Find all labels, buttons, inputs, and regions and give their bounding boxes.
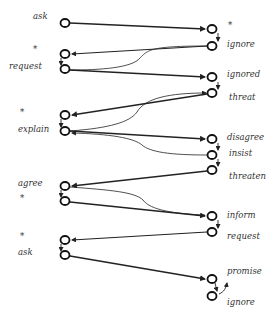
left-node-explain	[61, 127, 70, 135]
right-node-disagree	[208, 135, 217, 143]
label-disagree: disagree	[227, 132, 264, 142]
label-ignore: ignore	[227, 39, 255, 49]
right-node-threaten	[208, 166, 217, 174]
label-promise: promise	[227, 266, 262, 276]
left-node-star-1	[61, 50, 70, 58]
label-inform: inform	[227, 210, 256, 220]
right-link-arrow	[215, 283, 217, 291]
label-ignored: ignored	[227, 69, 260, 79]
label-star: *	[20, 193, 24, 203]
edge-insist-to-explain-curve	[72, 133, 207, 155]
edge-ask-to-promise	[70, 256, 205, 279]
edge-request-to-star	[72, 232, 207, 240]
right-node-ignored	[208, 73, 217, 81]
edge-ask-to-star	[70, 23, 205, 29]
left-node-agree	[61, 182, 70, 190]
label-star: *	[33, 44, 37, 54]
dialogue-transition-diagram: ask * request * explain agree * * ask * …	[0, 0, 277, 318]
right-node-request	[208, 228, 217, 236]
left-node-ask	[61, 19, 70, 27]
right-node-star	[208, 25, 217, 33]
label-insist: insist	[229, 148, 252, 158]
left-node-request	[61, 65, 70, 73]
left-node-star-4	[61, 236, 70, 244]
edge-threat-to-star	[72, 94, 207, 115]
label-request: request	[9, 61, 42, 71]
right-node-insist	[208, 151, 217, 159]
label-ask: ask	[18, 247, 33, 257]
edge-agree-to-inform-curve	[70, 187, 205, 215]
edge-request-to-ignored	[70, 70, 205, 77]
label-threat: threat	[229, 92, 255, 102]
label-star: *	[228, 20, 232, 30]
edge-explain-to-disagree	[70, 131, 205, 139]
label-request: request	[227, 231, 260, 241]
right-node-ignore	[208, 42, 217, 50]
edge-ignore-to-star	[72, 46, 207, 54]
left-node-star-2	[61, 111, 70, 119]
right-node-ignore-2	[208, 292, 217, 300]
left-node-star-3	[61, 197, 70, 205]
right-node-promise	[208, 275, 217, 283]
label-star: *	[20, 231, 24, 241]
edge-threaten-to-agree	[72, 171, 207, 186]
right-node-threat	[208, 89, 217, 97]
left-node-ask-2	[61, 251, 70, 259]
label-explain: explain	[18, 124, 49, 134]
label-agree: agree	[18, 178, 43, 188]
label-threaten: threaten	[229, 171, 266, 181]
right-node-inform	[208, 212, 217, 220]
ignore-exit-arrow	[219, 283, 227, 294]
label-ignore: ignore	[227, 297, 255, 307]
label-ask: ask	[33, 11, 48, 21]
label-star: *	[20, 107, 24, 117]
